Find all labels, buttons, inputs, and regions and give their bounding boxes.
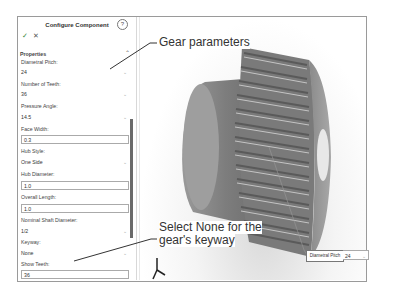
callout-gear-parameters: Gear parameters <box>159 36 250 49</box>
callout-keyway-line2: gear's keyway <box>159 234 235 247</box>
